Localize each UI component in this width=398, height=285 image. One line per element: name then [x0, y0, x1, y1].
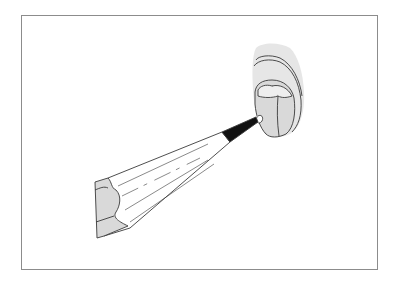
illustration-svg	[0, 0, 398, 285]
illustration-canvas	[0, 0, 398, 285]
gray-object-icon	[252, 44, 304, 138]
